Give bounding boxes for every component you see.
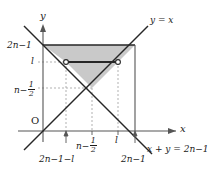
fraction-denominator: 2 <box>28 89 35 98</box>
y-tick-label-2n-1: 2n−1 <box>7 41 32 50</box>
x-tick-label-l: l <box>115 136 118 145</box>
x-tick-label-2n-1: 2n−1 <box>121 155 146 164</box>
x-tick-whole: n− <box>76 141 89 151</box>
y-axis-arrow-icon <box>40 24 46 32</box>
y-tick-fraction: 12 <box>28 81 35 98</box>
origin-label: O <box>31 116 39 126</box>
fraction-numerator: 1 <box>90 137 97 145</box>
x-axis-label: x <box>180 124 186 134</box>
x-axis-arrow-icon <box>168 128 176 134</box>
line-label-y-equals-x: y = x <box>150 16 173 25</box>
fraction-numerator: 1 <box>28 81 35 89</box>
x-tick-label-2n-1-minus-l: 2n−1−l <box>39 155 74 164</box>
y-axis-label: y <box>40 11 46 21</box>
x-tick-label-n-minus-half: n−12 <box>76 137 97 154</box>
line-label-x-plus-y: x + y = 2n−1 <box>147 145 208 154</box>
y-tick-label-l: l <box>31 57 34 66</box>
x-tick-fraction: 12 <box>90 137 97 154</box>
y-tick-whole: n− <box>14 85 27 95</box>
open-point-left-icon <box>64 60 69 65</box>
open-point-right-icon <box>116 60 121 65</box>
shaded-region <box>43 45 135 88</box>
fraction-denominator: 2 <box>90 145 97 154</box>
x-tick-arrows <box>64 131 137 143</box>
math-diagram-figure: y x O y = x x + y = 2n−1 2n−1 l n−12 2n−… <box>0 0 211 173</box>
y-tick-label-n-minus-half: n−12 <box>14 81 35 98</box>
